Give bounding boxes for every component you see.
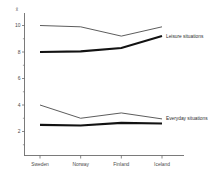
x-tick-label-norway: Norway xyxy=(72,162,89,167)
y-tick-label-4: 4 xyxy=(18,102,21,108)
y-axis-title: x̄ xyxy=(16,7,19,12)
chart-canvas: x̄ 246810 SwedenNorwayFinlandIceland Lei… xyxy=(0,0,218,174)
series-group xyxy=(40,26,162,126)
line-chart: x̄ 246810 SwedenNorwayFinlandIceland Lei… xyxy=(0,0,218,174)
x-tick-label-iceland: Iceland xyxy=(154,162,170,167)
series-label-everyday-situations: Everyday situations xyxy=(166,116,208,121)
series-label-leisure-situations: Leisure situations xyxy=(166,34,204,39)
y-tick-label-6: 6 xyxy=(18,75,21,81)
y-tick-label-8: 8 xyxy=(18,49,21,55)
y-tick-label-2: 2 xyxy=(18,128,21,134)
x-tick-label-finland: Finland xyxy=(113,162,129,167)
y-tick-label-group: 246810 xyxy=(15,22,21,134)
series-label-group: Leisure situationsEveryday situations xyxy=(166,34,208,121)
series-line-1 xyxy=(40,36,162,52)
series-line-0 xyxy=(40,26,162,37)
x-tick-label-sweden: Sweden xyxy=(31,162,49,167)
series-line-2 xyxy=(40,105,162,119)
x-tick-label-group: SwedenNorwayFinlandIceland xyxy=(31,162,170,167)
series-line-3 xyxy=(40,123,162,126)
y-tick-label-10: 10 xyxy=(15,22,21,28)
